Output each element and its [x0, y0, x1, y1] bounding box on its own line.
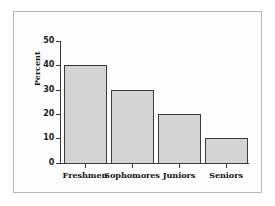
bar-seniors [205, 138, 248, 164]
x-tick-freshmen [85, 164, 86, 168]
y-axis-line [60, 41, 61, 164]
x-tick-sophomores [132, 164, 133, 168]
y-tick-label-20: 20 [32, 109, 54, 118]
y-tick-label-10-wrap: 10 [28, 133, 54, 143]
y-tick-label-30-wrap: 30 [28, 85, 54, 95]
bar-juniors [158, 114, 201, 164]
bar-chart-plot: Percent 0 10 20 30 40 50 [0, 0, 275, 206]
y-tick-label-50-wrap: 50 [28, 36, 54, 46]
y-tick-50 [56, 41, 60, 42]
y-tick-30 [56, 90, 60, 91]
x-label-seniors: Seniors [198, 170, 254, 180]
y-tick-label-10: 10 [32, 133, 54, 142]
y-tick-label-30: 30 [32, 85, 54, 94]
y-tick-label-50: 50 [32, 36, 54, 45]
chart-screenshot: Percent 0 10 20 30 40 50 [0, 0, 275, 206]
y-tick-label-40: 40 [32, 60, 54, 69]
x-tick-seniors [226, 164, 227, 168]
y-tick-20 [56, 114, 60, 115]
y-tick-10 [56, 138, 60, 139]
y-tick-40 [56, 65, 60, 66]
bar-freshmen [64, 65, 107, 164]
bar-sophomores [111, 90, 154, 164]
y-tick-label-0: 0 [32, 158, 54, 167]
y-tick-label-20-wrap: 20 [28, 109, 54, 119]
y-tick-0 [56, 163, 60, 164]
y-tick-label-0-wrap: 0 [28, 158, 54, 168]
x-tick-juniors [179, 164, 180, 168]
y-tick-label-40-wrap: 40 [28, 60, 54, 70]
